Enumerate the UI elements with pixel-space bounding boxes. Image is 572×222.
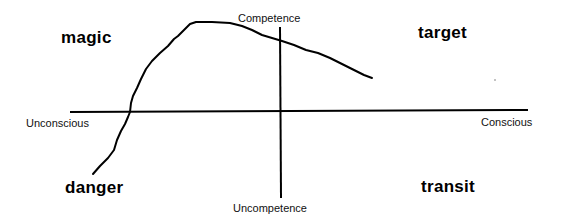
quadrant-label-transit: transit: [421, 178, 475, 195]
speck: [494, 79, 496, 81]
quadrant-label-danger: danger: [65, 179, 123, 196]
quadrant-label-target: target: [418, 24, 467, 41]
quadrant-label-magic: magic: [61, 29, 112, 46]
vertical-axis: [280, 27, 281, 198]
axis-label-uncompetence: Uncompetence: [233, 203, 307, 214]
axis-label-conscious: Conscious: [481, 117, 532, 128]
axis-label-unconscious: Unconscious: [26, 118, 89, 129]
horizontal-axis: [70, 110, 528, 112]
axis-label-competence: Competence: [238, 13, 300, 24]
learning-curve: [93, 22, 372, 174]
